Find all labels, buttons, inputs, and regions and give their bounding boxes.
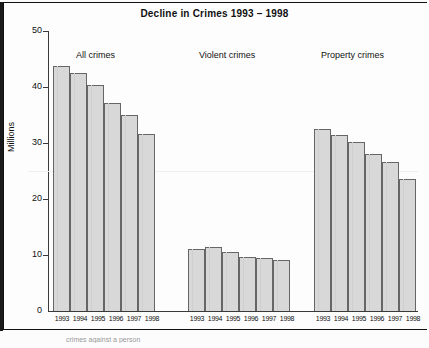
bar-sheen (91, 85, 92, 311)
bar-group-all-crimes (53, 66, 155, 311)
bar-sheen (335, 135, 336, 311)
bar-sheen (403, 179, 404, 311)
bar[interactable] (399, 179, 416, 311)
bar-sheen (386, 162, 387, 311)
bar-wrapper (104, 103, 121, 311)
bar-sheen (74, 73, 75, 311)
x-axis-line (48, 311, 418, 312)
bar[interactable] (365, 154, 382, 311)
x-tick-label: 1998 (404, 315, 422, 322)
bar-wrapper (331, 135, 348, 311)
x-axis-labels-property-crimes: 199319941995199619971998 (314, 315, 422, 322)
bar-wrapper (138, 134, 155, 311)
bar-sheen (369, 154, 370, 311)
x-tick-label: 1996 (242, 315, 260, 322)
x-tick-label: 1993 (188, 315, 206, 322)
bar[interactable] (53, 66, 70, 311)
y-tick-20 (43, 199, 49, 200)
bar-sheen (192, 249, 193, 311)
bar-group-violent-crimes (188, 247, 290, 311)
bar[interactable] (314, 129, 331, 311)
bar[interactable] (331, 135, 348, 311)
bar-sheen (260, 258, 261, 311)
bar[interactable] (70, 73, 87, 311)
bar-sheen (125, 115, 126, 311)
y-tick-40 (43, 87, 49, 88)
bar[interactable] (239, 257, 256, 311)
bar-wrapper (205, 247, 222, 311)
y-tick-10 (43, 255, 49, 256)
bar-wrapper (348, 142, 365, 311)
bar-wrapper (53, 66, 70, 311)
x-tick-label: 1998 (278, 315, 296, 322)
bar[interactable] (222, 252, 239, 311)
bar-wrapper (399, 179, 416, 311)
bar[interactable] (273, 260, 290, 311)
bar[interactable] (205, 247, 222, 311)
bar-sheen (108, 103, 109, 311)
bar[interactable] (188, 249, 205, 311)
y-ticklabel-50: 50 (18, 25, 42, 35)
bar-wrapper (256, 258, 273, 311)
x-tick-label: 1994 (332, 315, 350, 322)
bar-wrapper (314, 129, 331, 311)
chart-title: Decline in Crimes 1993 – 1998 (0, 8, 429, 19)
bar[interactable] (348, 142, 365, 311)
bar-wrapper (365, 154, 382, 311)
x-tick-label: 1997 (260, 315, 278, 322)
plot-area: 50 40 30 20 10 0 All crimes 199319941995… (48, 31, 418, 311)
bar[interactable] (87, 85, 104, 311)
bar-sheen (352, 142, 353, 311)
x-tick-label: 1993 (53, 315, 71, 322)
bar-group-property-crimes (314, 129, 416, 311)
bar[interactable] (382, 162, 399, 311)
x-tick-label: 1994 (71, 315, 89, 322)
bar[interactable] (104, 103, 121, 311)
x-tick-label: 1993 (314, 315, 332, 322)
x-axis-labels-all-crimes: 199319941995199619971998 (53, 315, 161, 322)
y-ticklabel-40: 40 (18, 81, 42, 91)
group-label-violent-crimes: Violent crimes (199, 50, 255, 60)
group-label-all-crimes: All crimes (76, 50, 115, 60)
y-tick-50 (43, 31, 49, 32)
x-axis-labels-violent-crimes: 199319941995199619971998 (188, 315, 296, 322)
bar-wrapper (70, 73, 87, 311)
bar-sheen (209, 247, 210, 311)
x-tick-label: 1995 (224, 315, 242, 322)
bar-sheen (57, 66, 58, 311)
bar-wrapper (121, 115, 138, 311)
x-tick-label: 1995 (89, 315, 107, 322)
bar[interactable] (121, 115, 138, 311)
chart-page: Decline in Crimes 1993 – 1998 Millions 5… (0, 0, 429, 348)
x-tick-label: 1997 (125, 315, 143, 322)
bar-sheen (318, 129, 319, 311)
bar-sheen (142, 134, 143, 311)
y-tick-30 (43, 143, 49, 144)
bar-sheen (243, 257, 244, 311)
x-tick-label: 1995 (350, 315, 368, 322)
bar[interactable] (138, 134, 155, 311)
x-tick-label: 1998 (143, 315, 161, 322)
footer-note: crimes against a person (66, 336, 426, 343)
x-tick-label: 1996 (368, 315, 386, 322)
bar-wrapper (239, 257, 256, 311)
bar-wrapper (188, 249, 205, 311)
bar-wrapper (273, 260, 290, 311)
bar-sheen (226, 252, 227, 311)
bar[interactable] (256, 258, 273, 311)
x-tick-label: 1996 (107, 315, 125, 322)
x-tick-label: 1997 (386, 315, 404, 322)
y-ticklabel-0: 0 (18, 305, 42, 315)
y-ticklabel-20: 20 (18, 193, 42, 203)
bar-wrapper (222, 252, 239, 311)
y-axis-label: Millions (6, 122, 16, 152)
y-ticklabel-30: 30 (18, 137, 42, 147)
bar-sheen (277, 260, 278, 311)
bar-wrapper (87, 85, 104, 311)
y-ticklabel-10: 10 (18, 249, 42, 259)
x-tick-label: 1994 (206, 315, 224, 322)
group-label-property-crimes: Property crimes (321, 50, 384, 60)
bar-wrapper (382, 162, 399, 311)
